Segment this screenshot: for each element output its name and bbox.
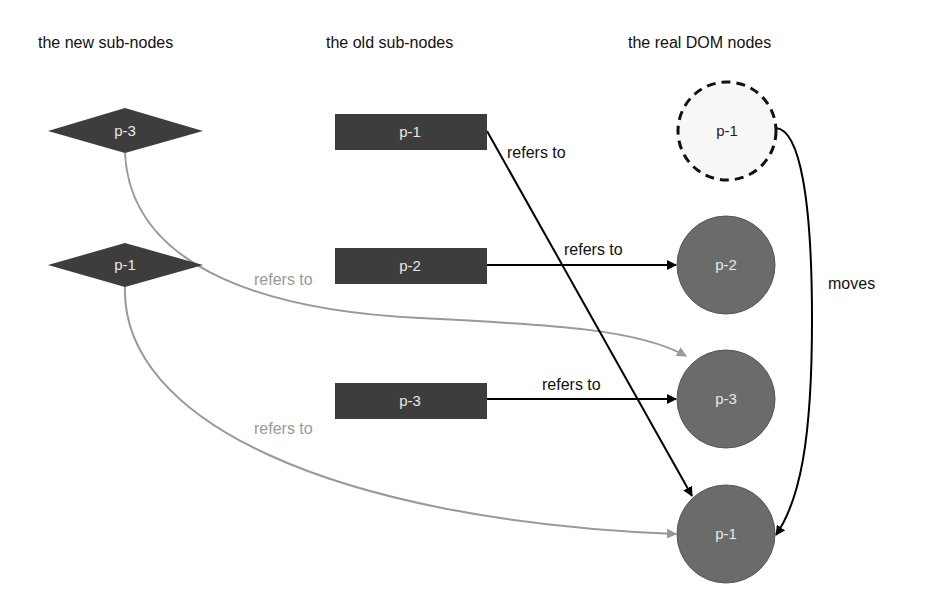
dom-node-p1[interactable]: p-1 — [677, 485, 775, 583]
header-real-dom-nodes: the real DOM nodes — [628, 34, 771, 51]
label-moves: moves — [828, 275, 875, 292]
old-node-p2-label: p-2 — [399, 257, 421, 274]
edge-old-p1-to-dom-p1 — [487, 131, 692, 496]
header-old-sub-nodes: the old sub-nodes — [326, 34, 453, 51]
diagram-canvas: the new sub-nodes the old sub-nodes the … — [0, 0, 927, 602]
edge-moves — [776, 128, 812, 535]
dom-node-p2[interactable]: p-2 — [677, 216, 775, 314]
old-node-p1-label: p-1 — [399, 123, 421, 140]
label-refers-to-old-p2: refers to — [564, 241, 623, 258]
old-node-p3[interactable]: p-3 — [335, 383, 487, 419]
new-node-p3[interactable]: p-3 — [48, 108, 203, 153]
label-refers-to-new-p3: refers to — [254, 271, 313, 288]
new-node-p1[interactable]: p-1 — [48, 243, 203, 287]
label-refers-to-new-p1: refers to — [254, 420, 313, 437]
dom-node-p1-label: p-1 — [715, 525, 737, 542]
old-node-p3-label: p-3 — [399, 392, 421, 409]
new-node-p3-label: p-3 — [114, 122, 136, 139]
dom-node-p1-removed-label: p-1 — [716, 122, 738, 139]
dom-node-p3[interactable]: p-3 — [677, 350, 775, 448]
dom-node-p1-removed[interactable]: p-1 — [678, 82, 776, 180]
old-node-p1[interactable]: p-1 — [335, 114, 487, 150]
label-refers-to-old-p3: refers to — [542, 376, 601, 393]
new-node-p1-label: p-1 — [114, 256, 136, 273]
label-refers-to-old-p1: refers to — [507, 144, 566, 161]
header-new-sub-nodes: the new sub-nodes — [38, 34, 173, 51]
old-node-p2[interactable]: p-2 — [335, 248, 487, 284]
dom-node-p2-label: p-2 — [715, 256, 737, 273]
dom-node-p3-label: p-3 — [715, 390, 737, 407]
